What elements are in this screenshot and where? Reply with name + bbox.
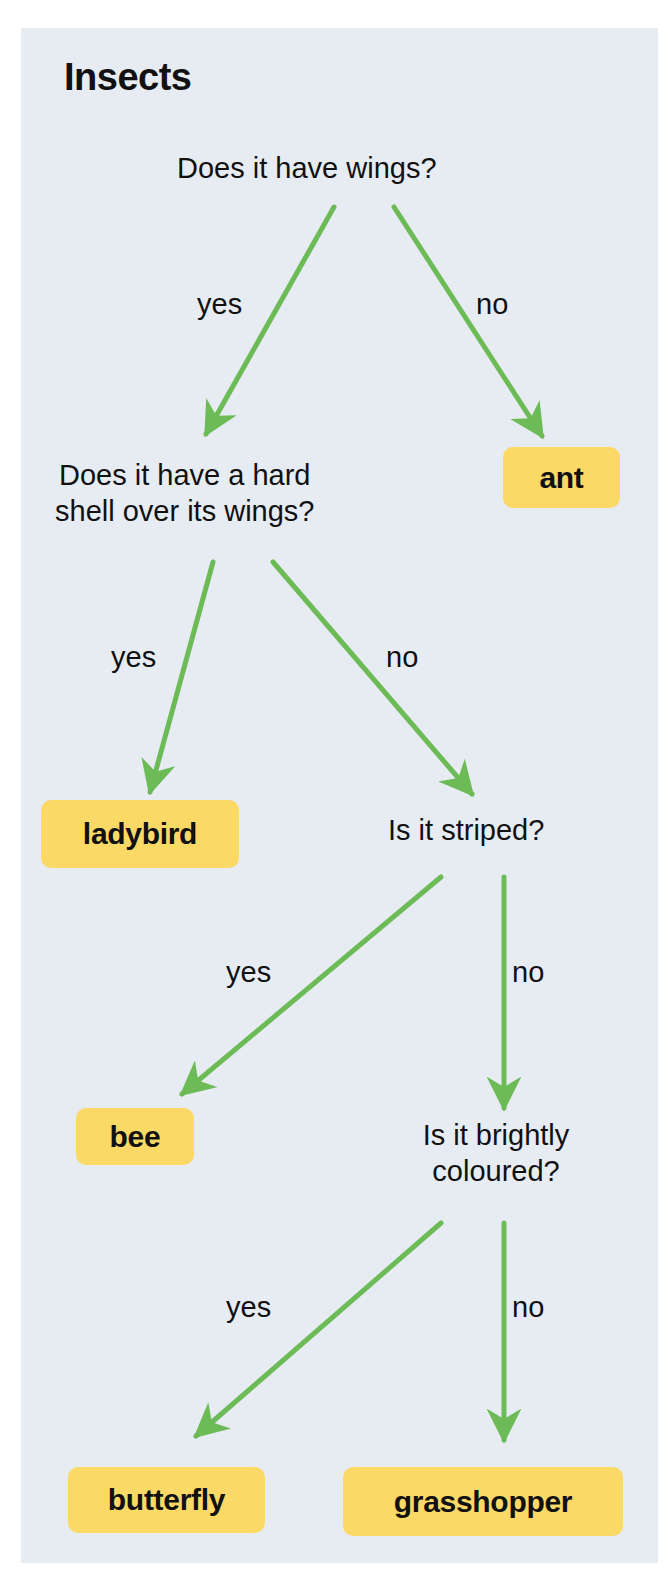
question-striped: Is it striped? bbox=[388, 812, 544, 848]
arrow-q3-yes bbox=[182, 877, 441, 1094]
question-hard-shell: Does it have a hard shell over its wings… bbox=[55, 457, 315, 529]
answer-bee: bee bbox=[76, 1108, 194, 1165]
label-q3-no: no bbox=[512, 955, 544, 989]
label-q4-no: no bbox=[512, 1290, 544, 1324]
arrow-q1-no bbox=[394, 207, 542, 436]
arrow-q2-yes bbox=[150, 562, 213, 792]
arrow-q2-no bbox=[273, 562, 472, 794]
answer-butterfly: butterfly bbox=[68, 1467, 265, 1533]
question-brightly-coloured: Is it brightly coloured? bbox=[398, 1117, 594, 1189]
label-q4-yes: yes bbox=[226, 1290, 271, 1324]
arrow-q4-yes bbox=[196, 1223, 441, 1436]
label-q2-no: no bbox=[386, 640, 418, 674]
answer-ant: ant bbox=[503, 447, 620, 508]
label-q3-yes: yes bbox=[226, 955, 271, 989]
label-q1-no: no bbox=[476, 287, 508, 321]
arrows-layer bbox=[0, 0, 668, 1585]
question-wings: Does it have wings? bbox=[177, 150, 437, 186]
label-q1-yes: yes bbox=[197, 287, 242, 321]
answer-ladybird: ladybird bbox=[41, 800, 239, 868]
answer-grasshopper: grasshopper bbox=[343, 1467, 623, 1536]
label-q2-yes: yes bbox=[111, 640, 156, 674]
